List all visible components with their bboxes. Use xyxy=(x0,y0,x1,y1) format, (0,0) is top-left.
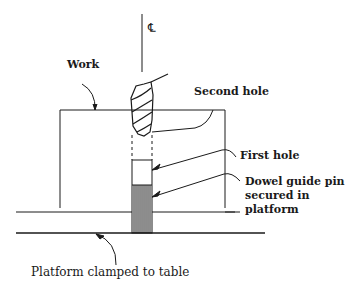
dowel-label-line1: Dowel guide pin xyxy=(245,176,345,188)
dowel-leader xyxy=(152,174,240,197)
dowel-pin xyxy=(132,185,152,233)
platform-leader xyxy=(96,234,116,265)
platform-label: Platform clamped to table xyxy=(31,266,189,278)
work-arrow-icon xyxy=(93,104,97,110)
work-leader xyxy=(82,84,95,110)
dowel-arrow-icon xyxy=(152,191,160,197)
diagram-drawing xyxy=(0,0,352,288)
dowel-label-line2: secured in xyxy=(245,190,309,202)
first-hole-label: First hole xyxy=(240,150,299,162)
drill-bit xyxy=(131,74,168,136)
work-label: Work xyxy=(67,59,99,71)
first-hole-leader xyxy=(152,150,236,170)
centerline-symbol: ℄ xyxy=(148,22,156,34)
second-hole-label: Second hole xyxy=(194,86,269,98)
drilling-jig-diagram: ℄ Work Second hole First hole Dowel guid… xyxy=(0,0,352,288)
second-hole-leader xyxy=(152,110,213,132)
first-hole-arrow-icon xyxy=(152,164,160,170)
platform-arrow-icon xyxy=(96,234,104,239)
dowel-label-line3: platform xyxy=(245,204,299,216)
